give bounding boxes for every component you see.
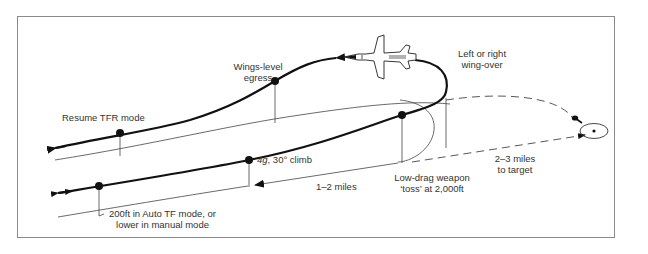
point-ingress — [95, 182, 103, 190]
label-toss: Low-drag weapon ‘toss’ at 2,000ft — [382, 172, 482, 194]
label-wingover-line2: wing-over — [442, 59, 522, 70]
label-climb-rest: , 30° climb — [268, 154, 312, 165]
label-distance-1-2: 1–2 miles — [316, 181, 357, 192]
bomb-icon — [572, 115, 582, 123]
label-wingover: Left or right wing-over — [442, 48, 522, 70]
point-climb — [245, 156, 253, 164]
label-wings-level-line1: Wings-level — [218, 61, 298, 72]
aircraft-icon — [344, 35, 416, 79]
label-climb: 4g, 30° climb — [257, 154, 312, 165]
label-toss-line1: Low-drag weapon — [382, 172, 482, 183]
label-altitude-line2: lower in manual mode — [100, 219, 225, 230]
label-to-target-line2: to target — [480, 164, 550, 175]
point-toss — [398, 111, 406, 119]
point-resume-tfr — [116, 129, 124, 137]
label-wingover-line1: Left or right — [442, 48, 522, 59]
weapon-trajectory — [446, 96, 574, 120]
flight-profile-diagram — [0, 0, 648, 254]
wingover-ground-projection — [398, 100, 434, 162]
label-wings-level: Wings-level egress — [218, 61, 298, 83]
label-altitude: 200ft in Auto TF mode, or lower in manua… — [100, 208, 225, 230]
label-wings-level-line2: egress — [218, 72, 298, 83]
label-to-target-line1: 2–3 miles — [480, 153, 550, 164]
label-resume-tfr: Resume TFR mode — [62, 112, 145, 123]
label-to-target: 2–3 miles to target — [480, 153, 550, 175]
label-altitude-line1: 200ft in Auto TF mode, or — [100, 208, 225, 219]
target-icon — [580, 124, 608, 139]
label-toss-line2: ‘toss’ at 2,000ft — [382, 183, 482, 194]
label-climb-g: 4g — [257, 154, 268, 165]
